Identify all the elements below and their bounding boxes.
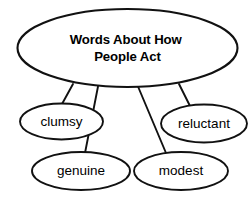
genuine-node-label: genuine bbox=[57, 163, 105, 178]
node-clumsy[interactable]: clumsy bbox=[20, 104, 103, 140]
root-node-label-line-2: People Act bbox=[94, 49, 161, 64]
modest-node-label: modest bbox=[159, 163, 204, 178]
reluctant-node-label: reluctant bbox=[178, 116, 230, 131]
concept-map-canvas: Words About How People Act clumsy reluct… bbox=[0, 0, 252, 199]
clumsy-node-label: clumsy bbox=[40, 114, 82, 129]
concept-map-diagram: Words About How People Act clumsy reluct… bbox=[0, 0, 252, 199]
connector-root-to-clumsy bbox=[62, 84, 73, 104]
connector-root-to-reluctant bbox=[179, 84, 190, 106]
node-genuine[interactable]: genuine bbox=[32, 152, 130, 190]
root-node-label-line-1: Words About How bbox=[70, 32, 183, 47]
node-reluctant[interactable]: reluctant bbox=[161, 105, 247, 143]
node-modest[interactable]: modest bbox=[134, 152, 228, 190]
node-root[interactable]: Words About How People Act bbox=[18, 9, 238, 87]
